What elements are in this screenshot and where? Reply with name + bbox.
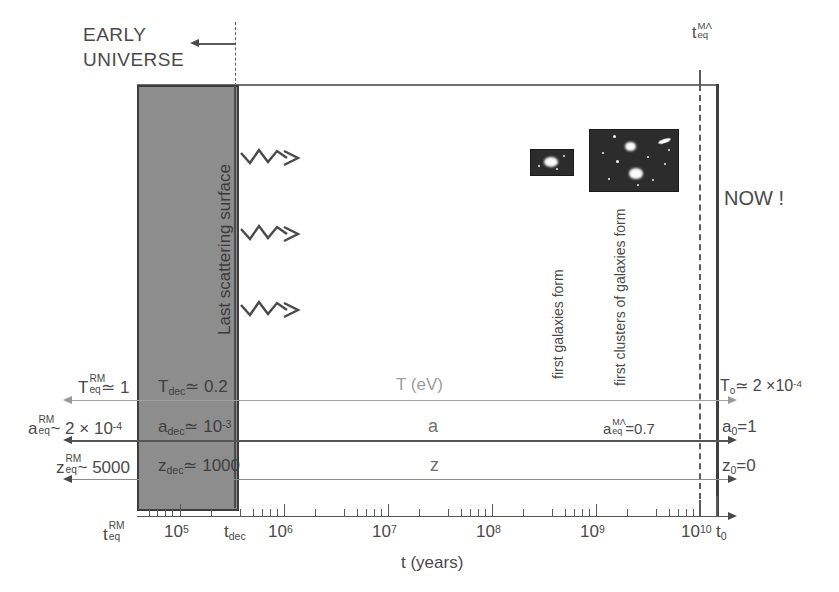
early-universe-label-line2: UNIVERSE bbox=[83, 50, 184, 69]
time-axis-minor-tick bbox=[565, 509, 566, 517]
time-axis-major-tick bbox=[596, 504, 597, 517]
temperature-now-exp: -4 bbox=[793, 378, 802, 389]
scalefactor-dec-exp: -3 bbox=[222, 418, 231, 430]
redshift-dec-sub: dec bbox=[167, 464, 184, 476]
time-tick-label: 107 bbox=[372, 523, 397, 540]
figure-canvas: EARLY UNIVERSE tMΛeq Last scattering sur… bbox=[0, 0, 839, 592]
time-axis-minor-tick bbox=[315, 509, 316, 517]
time-axis-minor-tick bbox=[470, 509, 471, 517]
time-axis-minor-tick bbox=[172, 509, 173, 517]
time-axis-minor-tick bbox=[419, 509, 420, 517]
time-axis-minor-tick bbox=[357, 509, 358, 517]
matter-lambda-equality-dashline bbox=[699, 85, 701, 509]
time-axis-minor-tick bbox=[374, 509, 375, 517]
scalefactor-eq-rest: ~ 2 × 10 bbox=[50, 419, 112, 438]
scalefactor-axis-label: a bbox=[428, 417, 438, 435]
temperature-dec-value: Tdec≃ 0.2 bbox=[158, 378, 228, 397]
galaxy-cluster-image bbox=[589, 129, 679, 192]
decoupling-guide-dash bbox=[235, 22, 236, 86]
time-tick-label: 1010 bbox=[681, 523, 712, 540]
time-axis-minor-tick bbox=[574, 509, 575, 517]
time-axis-minor-tick bbox=[678, 509, 679, 517]
time-tick-label: 109 bbox=[580, 523, 605, 540]
temperature-axis-line bbox=[70, 400, 730, 401]
scalefactor-mlambda-symbol: a bbox=[603, 420, 611, 437]
time-axis-minor-tick bbox=[693, 509, 694, 517]
first-clusters-form-label: first clusters of galaxies form bbox=[613, 209, 627, 386]
first-galaxies-form-label: first galaxies form bbox=[551, 269, 565, 379]
scalefactor-axis-line bbox=[70, 440, 730, 442]
scalefactor-mlambda-eq-value: aMΛeq=0.7 bbox=[603, 419, 655, 436]
t-eq-mlambda-tick bbox=[699, 70, 701, 85]
time-dec-label: tdec bbox=[224, 523, 246, 542]
scalefactor-dec-sub: dec bbox=[167, 425, 184, 437]
time-axis-line bbox=[137, 516, 730, 517]
redshift-now-rest: =0 bbox=[736, 456, 755, 475]
last-scattering-surface-label: Last scattering surface bbox=[216, 164, 233, 335]
first-galaxy-image bbox=[530, 149, 574, 176]
temperature-dec-symbol: T bbox=[158, 377, 168, 396]
redshift-axis-label: z bbox=[430, 456, 439, 474]
time-axis-right-arrow bbox=[728, 512, 737, 520]
temperature-eq-value: TRMeq≃ 1 bbox=[78, 376, 130, 396]
time-axis-minor-tick bbox=[211, 509, 212, 517]
right-frame-line bbox=[716, 84, 719, 516]
redshift-eq-symbol: z bbox=[56, 458, 65, 477]
temperature-axis-left-arrow bbox=[63, 396, 72, 404]
time-axis-major-tick bbox=[180, 504, 181, 517]
time-axis-minor-tick bbox=[344, 509, 345, 517]
time-now-label: t0 bbox=[716, 523, 727, 542]
redshift-eq-value: zRMeq~ 5000 bbox=[56, 456, 130, 476]
photon-wave-3 bbox=[240, 297, 306, 327]
scalefactor-eq-value: aRMeq~ 2 × 10-4 bbox=[28, 417, 122, 437]
time-axis-minor-tick bbox=[582, 509, 583, 517]
t-eq-mlambda-symbol: t bbox=[692, 24, 696, 41]
time-tick-label: 105 bbox=[164, 523, 189, 540]
photon-wave-2 bbox=[240, 221, 306, 251]
time-axis-minor-tick bbox=[656, 509, 657, 517]
time-axis-minor-tick bbox=[270, 509, 271, 517]
redshift-now-value: z0=0 bbox=[722, 457, 756, 476]
time-axis-minor-tick bbox=[149, 509, 150, 517]
time-axis-minor-tick bbox=[448, 509, 449, 517]
decoupling-line bbox=[234, 85, 236, 508]
time-axis-minor-tick bbox=[485, 509, 486, 517]
redshift-eq-rest: ~ 5000 bbox=[78, 458, 130, 477]
scalefactor-eq-exp: -4 bbox=[113, 420, 122, 432]
early-universe-arrow-head bbox=[190, 39, 199, 47]
time-axis-major-tick bbox=[284, 504, 285, 517]
time-axis-minor-tick bbox=[277, 509, 278, 517]
time-axis-major-tick bbox=[699, 500, 701, 517]
time-axis-minor-tick bbox=[627, 509, 628, 517]
time-axis-minor-tick bbox=[589, 509, 590, 517]
temperature-now-rest: ≃ 2 ×10 bbox=[735, 377, 793, 394]
time-axis-minor-tick bbox=[523, 509, 524, 517]
scalefactor-dec-value: adec≃ 10-3 bbox=[158, 418, 231, 437]
temperature-axis-label: T (eV) bbox=[396, 376, 443, 393]
time-axis-minor-tick bbox=[262, 509, 263, 517]
time-axis-minor-tick bbox=[686, 509, 687, 517]
temperature-dec-rest: ≃ 0.2 bbox=[185, 377, 227, 396]
redshift-dec-rest: ≃ 1000 bbox=[183, 456, 240, 475]
temperature-now-value: T0≃ 2 ×10-4 bbox=[720, 378, 802, 396]
early-universe-arrow-line bbox=[197, 43, 235, 45]
temperature-axis-right-arrow bbox=[728, 396, 737, 404]
time-axis-minor-tick bbox=[253, 509, 254, 517]
time-axis-major-tick bbox=[492, 504, 493, 517]
time-axis-minor-tick bbox=[461, 509, 462, 517]
temperature-dec-sub: dec bbox=[168, 385, 185, 397]
time-axis-minor-tick bbox=[478, 509, 479, 517]
scalefactor-now-rest: =1 bbox=[737, 417, 756, 436]
time-axis-minor-tick bbox=[381, 509, 382, 517]
temperature-eq-rest: ≃ 1 bbox=[101, 378, 129, 397]
redshift-dec-value: zdec≃ 1000 bbox=[158, 457, 240, 476]
time-axis-minor-tick bbox=[552, 509, 553, 517]
early-universe-label-line1: EARLY bbox=[83, 25, 146, 44]
photon-wave-1 bbox=[240, 145, 306, 175]
time-axis-minor-tick bbox=[366, 509, 367, 517]
temperature-now-symbol: T bbox=[720, 377, 730, 394]
time-axis-minor-tick bbox=[669, 509, 670, 517]
temperature-eq-symbol: T bbox=[78, 378, 88, 397]
time-axis-minor-tick bbox=[157, 509, 158, 517]
time-eq-rm-label: tRMeq bbox=[103, 523, 108, 543]
